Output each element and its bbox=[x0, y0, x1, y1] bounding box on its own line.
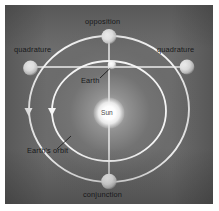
inner-orbit-arrow-icon bbox=[48, 108, 56, 116]
diagram-panel: opposition quadrature quadrature Earth S… bbox=[5, 5, 213, 204]
orbit-scene bbox=[5, 5, 213, 204]
outer-orbit-arrow-icon bbox=[25, 108, 33, 116]
label-opposition: opposition bbox=[85, 17, 120, 26]
label-quadrature-left: quadrature bbox=[14, 45, 51, 54]
figure-root: opposition quadrature quadrature Earth S… bbox=[0, 0, 219, 211]
earth-body bbox=[108, 61, 117, 70]
planet-quadrature-left bbox=[23, 61, 38, 76]
label-quadrature-right: quadrature bbox=[157, 45, 194, 54]
label-conjunction: conjunction bbox=[83, 190, 122, 199]
label-earth: Earth bbox=[81, 76, 99, 85]
label-sun: Sun bbox=[101, 109, 113, 116]
planet-quadrature-right bbox=[180, 60, 195, 75]
planet-conjunction bbox=[101, 174, 117, 190]
label-earths-orbit: Earth's orbit bbox=[27, 146, 68, 155]
planet-opposition bbox=[101, 29, 116, 44]
